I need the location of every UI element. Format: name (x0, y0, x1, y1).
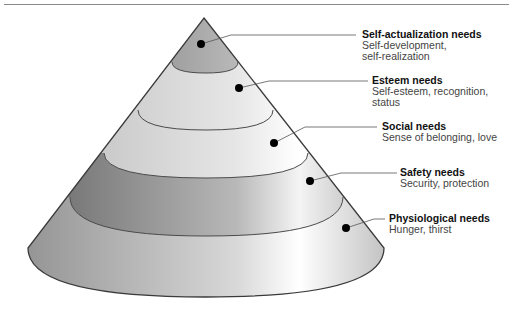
marker-dot-physiological (342, 224, 350, 232)
marker-dot-safety (306, 177, 314, 185)
level-description: Security, protection (400, 178, 489, 189)
marker-dot-esteem (235, 84, 243, 92)
marker-dot-social (270, 139, 278, 147)
level-description: Sense of belonging, love (382, 132, 497, 143)
level-description: status (372, 97, 488, 108)
label-self-actualization: Self-actualization needs Self-developmen… (362, 29, 482, 62)
label-safety: Safety needs Security, protection (400, 167, 489, 189)
label-social: Social needs Sense of belonging, love (382, 121, 497, 143)
label-physiological: Physiological needs Hunger, thirst (389, 213, 490, 235)
marker-dot-self-actualization (197, 40, 205, 48)
band-esteem (0, 0, 525, 130)
label-esteem: Esteem needs Self-esteem, recognition, s… (372, 75, 488, 108)
level-description: self-realization (362, 51, 482, 62)
level-description: Hunger, thirst (389, 224, 490, 235)
leader-line-self-actualization (201, 35, 356, 44)
